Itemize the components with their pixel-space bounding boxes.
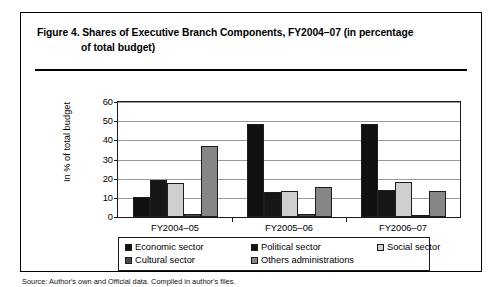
figure-title-line-1: Figure 4. Shares of Executive Branch Com… — [37, 27, 413, 38]
legend-label: Cultural sector — [135, 255, 195, 266]
x-axis-tick-label: FY2004–05 — [151, 223, 199, 233]
bar-group — [346, 102, 460, 217]
figure-title: Figure 4. Shares of Executive Branch Com… — [37, 26, 467, 55]
bar — [201, 146, 218, 217]
legend-item: Economic sector — [125, 242, 251, 253]
figure-container: Figure 4. Shares of Executive Branch Com… — [20, 12, 482, 272]
bar — [378, 190, 395, 217]
y-tick-label: 60 — [103, 97, 113, 107]
legend-item: Cultural sector — [125, 255, 251, 266]
legend-item: Others administrations — [251, 255, 425, 266]
bar-group — [232, 102, 346, 217]
y-tick-label: 30 — [103, 155, 113, 165]
x-tick-mark — [232, 217, 233, 222]
bar — [412, 215, 429, 217]
bar — [361, 124, 378, 217]
x-tick-mark — [346, 217, 347, 222]
bar-group — [118, 102, 232, 217]
bar — [429, 191, 446, 217]
figure-title-line-2: of total budget) — [37, 41, 467, 56]
bar — [298, 214, 315, 217]
source-note: Source: Author's own and Official data. … — [22, 277, 492, 286]
y-tick-label: 10 — [103, 193, 113, 203]
legend-swatch — [377, 244, 384, 251]
y-tick-label: 40 — [103, 135, 113, 145]
bar — [150, 180, 167, 217]
legend-swatch — [125, 244, 132, 251]
bar — [184, 214, 201, 217]
bar — [264, 192, 281, 217]
legend-swatch — [125, 257, 132, 264]
title-divider — [35, 69, 467, 71]
legend-item: Social sector — [377, 242, 425, 253]
legend-label: Others administrations — [261, 255, 354, 266]
bar — [133, 197, 150, 217]
legend-label: Political sector — [261, 242, 321, 253]
legend-label: Economic sector — [135, 242, 204, 253]
legend-label: Social sector — [387, 242, 440, 253]
plot-area: 0102030405060 FY2004–05FY2005–06FY2006–0… — [117, 101, 461, 218]
bar — [281, 191, 298, 217]
y-tick-label: 0 — [108, 212, 113, 222]
legend-row-2: Cultural sectorOthers administrations — [125, 254, 425, 267]
legend-row-1: Economic sectorPolitical sectorSocial se… — [125, 241, 425, 254]
chart-legend: Economic sectorPolitical sectorSocial se… — [118, 237, 430, 271]
y-tick-label: 50 — [103, 116, 113, 126]
bar — [167, 183, 184, 217]
legend-item: Political sector — [251, 242, 377, 253]
x-axis-tick-label: FY2006–07 — [379, 223, 427, 233]
y-axis-label: In % of total budget — [62, 87, 72, 197]
legend-swatch — [251, 244, 258, 251]
legend-swatch — [251, 257, 258, 264]
bar — [247, 124, 264, 217]
x-axis-tick-label: FY2005–06 — [265, 223, 313, 233]
bar — [395, 182, 412, 217]
y-tick-mark — [114, 217, 118, 218]
y-tick-label: 20 — [103, 174, 113, 184]
bar — [315, 187, 332, 217]
